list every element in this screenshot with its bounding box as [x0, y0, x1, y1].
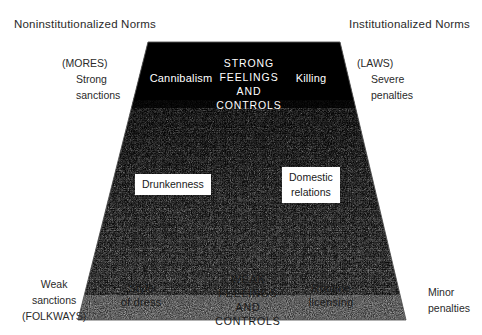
style-line-1: Style — [110, 281, 172, 295]
example-killing: Killing — [281, 71, 341, 85]
weak-line-4: CONTROLS — [203, 314, 293, 328]
left-annotation-folkways: Weak sanctions (FOLKWAYS) — [22, 276, 86, 324]
style-line-2: of dress — [110, 295, 172, 309]
minor-penalties-line2: penalties — [428, 300, 470, 316]
weak-line-2: FEELINGS — [203, 286, 293, 300]
label-weak-feelings-and-controls: WEAK FEELINGS AND CONTROLS — [203, 272, 293, 328]
domestic-line-2: relations — [289, 185, 333, 200]
left-annotation-mores: (MORES) Strong sanctions — [62, 55, 120, 103]
routine-line-1: Routine — [296, 281, 366, 295]
weak-sanctions-line1: Weak — [22, 276, 86, 292]
folkways-paren: (FOLKWAYS) — [22, 308, 86, 324]
example-drunkenness: Drunkenness — [135, 174, 211, 195]
heading-institutionalized-norms: Institutionalized Norms — [349, 18, 470, 30]
strong-line-1: STRONG — [204, 56, 294, 70]
severe-penalties-line1: Severe — [371, 71, 413, 87]
example-style-of-dress: Style of dress — [110, 281, 172, 309]
minor-penalties-line1: Minor — [428, 284, 470, 300]
example-routine-licensing: Routine licensing — [296, 281, 366, 309]
strong-line-3: AND — [204, 84, 294, 98]
heading-noninstitutionalized-norms: Noninstitutionalized Norms — [14, 18, 156, 30]
weak-sanctions-line2: sanctions — [22, 292, 86, 308]
right-annotation-laws: (LAWS) Severe penalties — [357, 55, 413, 103]
norms-continuum-figure: Noninstitutionalized Norms Institutional… — [0, 0, 482, 335]
routine-line-2: licensing — [296, 295, 366, 309]
weak-line-1: WEAK — [203, 272, 293, 286]
strong-line-4: CONTROLS — [204, 98, 294, 112]
laws-paren: (LAWS) — [357, 55, 413, 71]
right-annotation-minor-penalties: Minor penalties — [428, 284, 470, 316]
severe-penalties-line2: penalties — [371, 87, 413, 103]
mores-paren: (MORES) — [62, 55, 120, 71]
strong-sanctions-line1: Strong — [76, 71, 120, 87]
example-domestic-relations: Domestic relations — [282, 167, 340, 203]
strong-sanctions-line2: sanctions — [76, 87, 120, 103]
domestic-line-1: Domestic — [289, 170, 333, 185]
weak-line-3: AND — [203, 300, 293, 314]
trapezoid-grain-overlay — [70, 95, 416, 295]
